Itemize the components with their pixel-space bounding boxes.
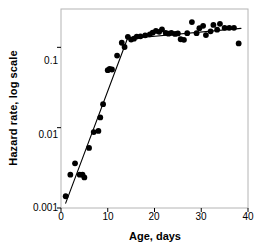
- data-point: [181, 37, 187, 43]
- chart-figure: Hazard rate, log scale 0.1 0.01 0.001 0 …: [0, 0, 262, 250]
- data-point: [122, 44, 128, 50]
- data-point: [200, 23, 206, 29]
- data-point: [100, 101, 106, 107]
- plot-frame: [61, 9, 248, 208]
- plot-canvas: [0, 0, 262, 250]
- data-point: [208, 28, 214, 34]
- data-point: [81, 175, 87, 181]
- data-point: [109, 67, 115, 73]
- data-point: [236, 40, 242, 46]
- data-point: [96, 128, 102, 134]
- data-point: [72, 160, 78, 166]
- data-point: [97, 115, 103, 121]
- y-axis-ticks: [57, 47, 61, 208]
- data-point: [114, 53, 120, 59]
- data-point: [217, 21, 223, 27]
- plot-frame-rect: [61, 9, 248, 208]
- data-point: [214, 27, 220, 33]
- data-point: [189, 19, 195, 25]
- data-point: [63, 193, 69, 199]
- data-point: [203, 32, 209, 38]
- data-point: [67, 172, 73, 178]
- data-point: [194, 30, 200, 36]
- data-point: [86, 145, 92, 151]
- data-point: [184, 30, 190, 36]
- x-axis-ticks: [61, 208, 248, 212]
- data-point: [211, 22, 217, 28]
- data-point: [231, 25, 237, 31]
- data-point: [175, 31, 181, 37]
